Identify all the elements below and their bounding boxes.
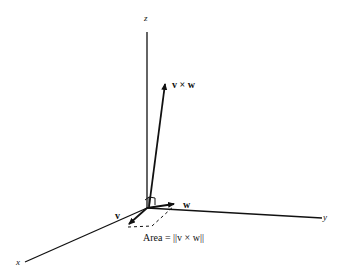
y-axis — [147, 208, 322, 218]
x-axis-label: x — [16, 258, 20, 267]
v-label: v — [115, 211, 120, 221]
cross-product-diagram: z x y v × w v w Area = ||v × w|| — [0, 0, 340, 276]
y-axis-label: y — [323, 213, 327, 222]
w-vector — [147, 204, 174, 208]
area-label: Area = ||v × w|| — [143, 233, 204, 243]
x-axis — [25, 208, 147, 262]
v-vector — [129, 208, 147, 224]
cross-product-vector — [149, 84, 165, 207]
z-axis-label: z — [144, 14, 148, 23]
w-label: w — [183, 200, 190, 210]
cross-product-label: v × w — [172, 80, 195, 90]
